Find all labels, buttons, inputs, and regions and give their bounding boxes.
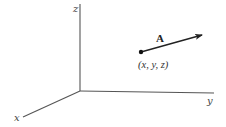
z-axis-label: z [72, 3, 79, 14]
coordinate-diagram: z y x A (x, y, z) [0, 0, 226, 127]
x-axis [23, 91, 80, 117]
point-coordinate-label: (x, y, z) [138, 59, 169, 71]
x-axis-label: x [14, 112, 20, 123]
vector-tail-point [139, 50, 143, 54]
y-axis-label: y [206, 95, 213, 106]
vector-a-arrow [141, 35, 202, 52]
vector-label: A [156, 32, 164, 44]
y-axis [80, 91, 214, 93]
